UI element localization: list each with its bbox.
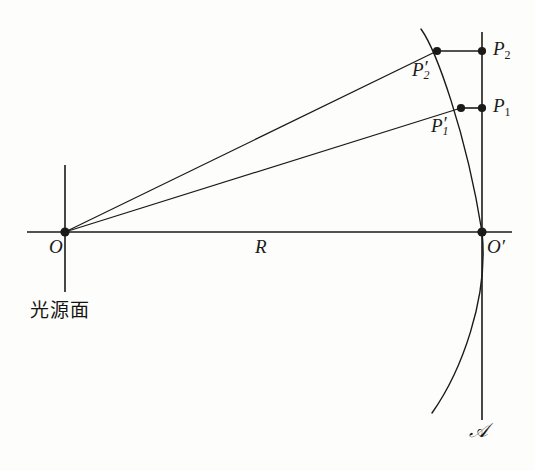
ray-to-p1-prime — [65, 108, 461, 232]
subscript-p1-prime: 1 — [443, 125, 449, 137]
point-marker-p1-prime — [457, 104, 465, 112]
p2-prime-stack: P′2 — [412, 60, 424, 79]
figure-canvas — [0, 0, 535, 471]
point-marker-p2 — [478, 47, 486, 55]
label-radius-r: R — [255, 237, 267, 256]
label-detector-axis: 𝒜 — [469, 420, 488, 440]
subscript-1: 1 — [505, 105, 511, 119]
point-marker-p2-prime — [433, 47, 441, 55]
label-point-p2-prime: P′2 — [412, 60, 424, 79]
label-point-p1: P1 — [493, 96, 511, 115]
ray-to-p2-prime — [65, 51, 437, 232]
optics-geometry-figure: O O′ R P2 P1 P′2 P′1 光源面 𝒜 — [0, 0, 535, 471]
label-origin-o-prime: O′ — [487, 237, 505, 256]
prime-mark-o: ′ — [501, 236, 505, 257]
p1-prime-stack: P′1 — [431, 116, 443, 135]
spherical-wavefront-arc — [421, 29, 483, 413]
subscript-p2-prime: 2 — [424, 69, 430, 81]
subscript-2: 2 — [505, 48, 511, 62]
label-source-plane: 光源面 — [30, 301, 90, 320]
label-origin-o: O — [49, 237, 63, 256]
point-marker-o-prime — [477, 227, 486, 236]
label-point-p2: P2 — [493, 39, 511, 58]
point-marker-p1 — [478, 104, 486, 112]
label-point-p1-prime: P′1 — [431, 116, 443, 135]
